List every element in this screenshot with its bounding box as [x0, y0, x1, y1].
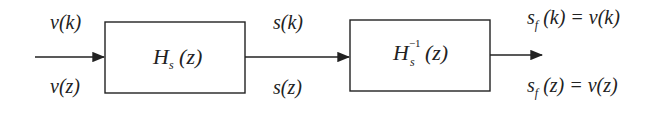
- output-label-z: sf (z) = v(z): [527, 75, 618, 95]
- mid-label-z: s(z): [273, 77, 302, 97]
- block-1-symbol: H: [153, 44, 169, 69]
- output-z-rest: (z) = v(z): [543, 74, 618, 96]
- output-z-subscript: f: [535, 86, 538, 100]
- input-label-z: v(z): [50, 76, 80, 96]
- block-2-label: H−1s(z): [393, 42, 448, 64]
- output-z-symbol: s: [527, 74, 535, 96]
- block-2-superscript: −1: [409, 38, 421, 49]
- output-time-symbol: s: [527, 6, 535, 28]
- block-2-symbol: H: [393, 40, 409, 65]
- input-label-time: v(k): [50, 12, 81, 32]
- mid-label-time: s(k): [273, 12, 303, 32]
- block-2-subscript: s: [410, 56, 415, 68]
- block-1-arg: (z): [179, 44, 202, 69]
- output-time-rest: (k) = v(k): [543, 6, 620, 28]
- block-2-arg: (z): [425, 40, 448, 65]
- block-1-label: Hs (z): [153, 46, 202, 68]
- output-time-subscript: f: [535, 18, 538, 32]
- output-label-time: sf (k) = v(k): [527, 7, 620, 27]
- block-1-subscript: s: [169, 58, 174, 72]
